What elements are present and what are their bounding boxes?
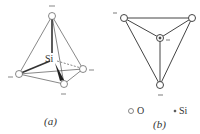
caption-b: (b) [153, 118, 166, 130]
legend-icons [129, 109, 177, 114]
oxygen-legend-icon [129, 109, 134, 114]
caption-a: (a) [44, 115, 57, 127]
legend-silicon-label: Si [179, 105, 187, 116]
silicon-legend-icon [174, 110, 176, 112]
figure-b-tetrahedron [113, 13, 196, 95]
si-label: Si [45, 53, 54, 64]
legend-oxygen-label: O [137, 105, 144, 116]
figure-a-tetrahedron [8, 6, 94, 94]
silicate-tetrahedron-diagram: Si [0, 0, 200, 134]
